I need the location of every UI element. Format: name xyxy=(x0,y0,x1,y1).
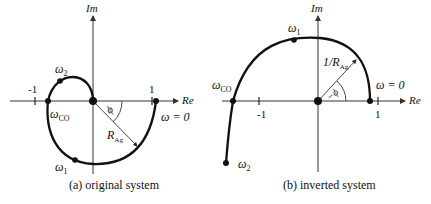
origin-point xyxy=(89,97,97,105)
panel-b-inverted-system: Im Re -1 1 −ϕ 1/RAg ω1 ωCO ω2 ω = 0 (b) … xyxy=(212,2,421,192)
omega-co-label: ωCO xyxy=(212,78,232,94)
omega-0-point xyxy=(367,98,373,104)
omega-2-point xyxy=(223,160,229,166)
origin-point xyxy=(314,97,322,105)
angle-arc xyxy=(337,81,346,101)
omega-2-label: ω2 xyxy=(238,157,250,173)
tick-label-neg-one: -1 xyxy=(257,108,266,120)
omega-2-label: ω2 xyxy=(55,62,67,78)
re-axis-label: Re xyxy=(408,94,421,106)
angle-label: −ϕ xyxy=(324,86,340,102)
tick-label-one: 1 xyxy=(149,83,155,95)
omega-co-point xyxy=(45,98,51,104)
panel-a-original-system: Im Re -1 1 ϕ RAg ω2 ωCO ω1 ω = 0 (a) ori… xyxy=(10,2,194,192)
omega-1-point xyxy=(72,157,78,163)
omega-1-point xyxy=(291,37,297,43)
caption-a: (a) original system xyxy=(69,178,160,192)
tick-label-neg-one: -1 xyxy=(28,83,37,95)
omega-0-point xyxy=(153,98,159,104)
omega-2-point xyxy=(57,78,63,84)
im-axis-label: Im xyxy=(85,2,98,14)
tick-label-one: 1 xyxy=(375,108,381,120)
nyquist-diagram-figure: Im Re -1 1 ϕ RAg ω2 ωCO ω1 ω = 0 (a) ori… xyxy=(0,0,431,204)
re-axis-label: Re xyxy=(181,94,194,106)
omega-0-label: ω = 0 xyxy=(376,78,405,92)
svg-text:RAg: RAg xyxy=(106,128,123,144)
omega-1-label: ω1 xyxy=(55,160,67,176)
im-axis-label: Im xyxy=(310,2,323,14)
omega-0-label: ω = 0 xyxy=(161,110,190,124)
omega-1-label: ω1 xyxy=(288,21,300,37)
caption-b: (b) inverted system xyxy=(283,178,376,192)
radius-label: 1/RAg xyxy=(323,55,349,71)
omega-co-point xyxy=(230,98,236,104)
svg-text:1/RAg: 1/RAg xyxy=(323,55,349,71)
nyquist-curve xyxy=(226,38,370,163)
omega-co-label: ωCO xyxy=(50,107,70,123)
radius-label: RAg xyxy=(106,128,123,144)
